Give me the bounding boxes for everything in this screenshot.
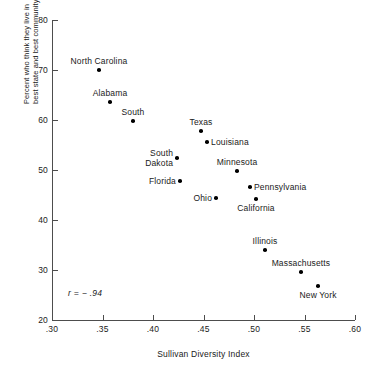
data-point-label: Texas bbox=[189, 117, 212, 127]
footer-partial-text bbox=[6, 371, 226, 376]
y-tick-label: 20 bbox=[24, 316, 48, 325]
data-point bbox=[131, 119, 135, 123]
data-point bbox=[108, 100, 112, 104]
y-tick-mark bbox=[53, 320, 58, 321]
data-point bbox=[263, 248, 267, 252]
data-point-label: South bbox=[122, 107, 145, 117]
data-point bbox=[316, 284, 320, 288]
data-point bbox=[235, 169, 239, 173]
x-tick-mark bbox=[52, 315, 53, 320]
x-tick-label: .40 bbox=[138, 325, 168, 334]
y-tick-mark bbox=[53, 170, 58, 171]
data-point bbox=[248, 185, 252, 189]
x-tick-mark bbox=[204, 315, 205, 320]
y-axis-title-line-1: Percent who think they live in bbox=[22, 0, 31, 104]
x-tick-label: .55 bbox=[290, 325, 320, 334]
y-tick-mark bbox=[53, 20, 58, 21]
data-point-label: New York bbox=[299, 290, 336, 300]
data-point bbox=[175, 156, 179, 160]
data-point bbox=[199, 129, 203, 133]
y-tick-mark bbox=[53, 220, 58, 221]
correlation-annotation: r = − .94 bbox=[68, 288, 102, 298]
x-tick-mark bbox=[305, 315, 306, 320]
data-point-label: Illinois bbox=[253, 236, 278, 246]
data-point bbox=[299, 270, 303, 274]
y-axis-title: Percent who think they live in best stat… bbox=[0, 95, 42, 245]
data-point bbox=[205, 140, 209, 144]
x-tick-label: .35 bbox=[88, 325, 118, 334]
x-tick-mark bbox=[103, 315, 104, 320]
y-tick-mark bbox=[53, 120, 58, 121]
x-axis-title: Sullivan Diversity Index bbox=[52, 349, 355, 359]
x-axis-line bbox=[52, 320, 355, 321]
data-point-label: Florida bbox=[149, 176, 176, 186]
data-point-label: Pennsylvania bbox=[254, 182, 306, 192]
y-tick-label: 30 bbox=[24, 266, 48, 275]
data-point bbox=[178, 179, 182, 183]
x-tick-label: .30 bbox=[37, 325, 67, 334]
data-point bbox=[254, 197, 258, 201]
data-point bbox=[214, 196, 218, 200]
y-tick-mark bbox=[53, 270, 58, 271]
data-point-label: California bbox=[237, 203, 274, 213]
scatter-plot-figure: 20304050607080 .30.35.40.45.50.55.60 Per… bbox=[0, 0, 377, 376]
data-point-label: Minnesota bbox=[217, 157, 258, 167]
x-tick-mark bbox=[254, 315, 255, 320]
data-point bbox=[97, 68, 101, 72]
x-tick-label: .60 bbox=[340, 325, 370, 334]
x-tick-label: .50 bbox=[239, 325, 269, 334]
data-point-label: Alabama bbox=[93, 88, 128, 98]
data-point-label: North Carolina bbox=[71, 56, 128, 66]
data-point-label: Louisiana bbox=[211, 137, 249, 147]
x-tick-mark bbox=[153, 315, 154, 320]
y-tick-mark bbox=[53, 70, 58, 71]
y-axis-title-line-2: best state and best community bbox=[31, 0, 40, 104]
x-tick-label: .45 bbox=[189, 325, 219, 334]
x-tick-mark bbox=[355, 315, 356, 320]
data-point-label: Massachusetts bbox=[272, 258, 331, 268]
data-point-label: Ohio bbox=[193, 193, 212, 203]
data-point-label: SouthDakota bbox=[145, 148, 173, 168]
